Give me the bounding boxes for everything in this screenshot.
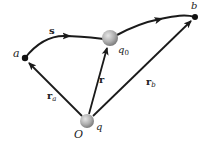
path-s-segment-1 <box>25 36 103 58</box>
diagram-canvas: a b s q0 r ra rb O q <box>0 0 201 148</box>
test-charge-sphere <box>102 30 118 46</box>
path-s-segment-2 <box>117 16 195 35</box>
label-r-a-sub: a <box>52 95 56 103</box>
label-r-b: rb <box>146 76 156 89</box>
point-a-dot <box>22 55 28 61</box>
label-b: b <box>191 0 197 11</box>
vector-r-a <box>29 63 82 116</box>
point-b-dot <box>192 14 198 20</box>
label-a: a <box>13 47 20 60</box>
label-q0: q0 <box>118 44 129 57</box>
label-r-a: ra <box>47 90 56 103</box>
label-q0-sub: 0 <box>124 49 128 57</box>
label-origin: O <box>74 128 83 141</box>
label-r: r <box>99 74 105 85</box>
label-r-b-sub: b <box>151 81 156 89</box>
source-charge-sphere <box>80 114 94 128</box>
label-s: s <box>49 25 55 36</box>
label-q: q <box>96 121 102 132</box>
